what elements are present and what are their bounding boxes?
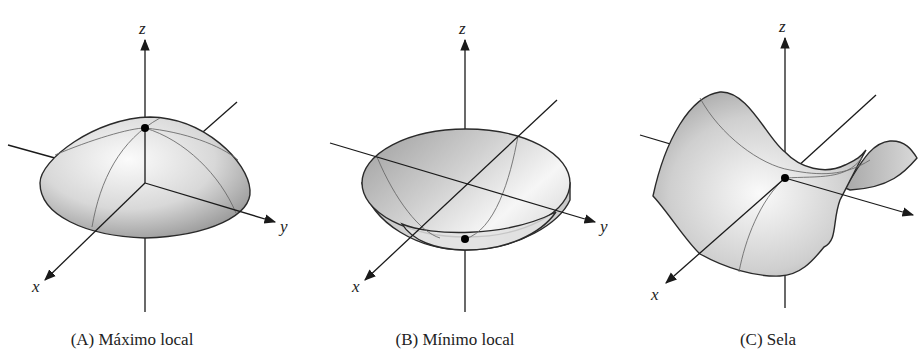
panel-a-local-maximum: z y x: [8, 19, 288, 312]
panel-c-saddle: z x: [640, 17, 917, 308]
z-axis-label: z: [778, 17, 786, 36]
z-axis-label: z: [458, 19, 466, 38]
caption-a: (A) Máximo local: [71, 330, 194, 350]
x-axis-label: x: [31, 277, 40, 296]
y-axis-label: y: [598, 217, 608, 236]
y-axis-label: y: [278, 217, 288, 236]
caption-b: (B) Mínimo local: [396, 330, 515, 350]
x-axis-label: x: [351, 277, 360, 296]
critical-points-figure: z y x z y x: [0, 0, 918, 356]
maximum-point: [141, 124, 149, 132]
z-axis-label: z: [138, 19, 146, 38]
x-axis-label: x: [650, 285, 659, 304]
panel-b-local-minimum: z y x: [330, 19, 608, 312]
saddle-surface: [653, 92, 866, 276]
saddle-point: [781, 174, 789, 182]
minimum-point: [461, 235, 469, 243]
caption-c: (C) Sela: [740, 330, 796, 350]
